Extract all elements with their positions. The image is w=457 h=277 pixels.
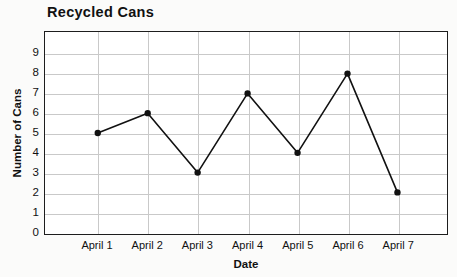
y-axis-tick-label: 2 <box>0 187 39 199</box>
y-axis-tick-label: 5 <box>0 127 39 139</box>
plot-inner <box>45 32 447 234</box>
y-axis-tick-label: 9 <box>0 47 39 59</box>
x-axis-tick-label: April 5 <box>282 239 313 251</box>
x-axis-tick-label: April 6 <box>332 239 363 251</box>
data-point-marker <box>344 70 350 76</box>
y-axis-tick-label: 1 <box>0 207 39 219</box>
data-point-marker <box>244 90 250 96</box>
plot-area <box>44 31 448 235</box>
x-axis-tick-label: April 3 <box>182 239 213 251</box>
y-axis-tick-label: 6 <box>0 107 39 119</box>
data-series-recycled-cans <box>45 32 447 234</box>
data-point-marker <box>95 130 101 136</box>
y-axis-tick-label: 0 <box>0 227 39 239</box>
chart-title: Recycled Cans <box>47 4 154 20</box>
y-axis-tick-label: 4 <box>0 147 39 159</box>
data-point-marker <box>145 110 151 116</box>
x-axis-title: Date <box>234 258 259 270</box>
x-axis-tick-label: April 4 <box>232 239 263 251</box>
y-axis-tick-label: 3 <box>0 167 39 179</box>
data-point-marker <box>394 189 400 195</box>
y-axis-tick-labels: 9876543210 <box>0 0 39 277</box>
data-point-marker <box>194 169 200 175</box>
x-axis-tick-label: April 7 <box>383 239 414 251</box>
chart-canvas: Recycled Cans Number of Cans 9876543210 … <box>0 0 457 277</box>
y-axis-tick-label: 7 <box>0 87 39 99</box>
y-axis-tick-label: 8 <box>0 67 39 79</box>
x-axis-tick-label: April 2 <box>132 239 163 251</box>
data-point-marker <box>294 150 300 156</box>
x-axis-tick-label: April 1 <box>81 239 112 251</box>
